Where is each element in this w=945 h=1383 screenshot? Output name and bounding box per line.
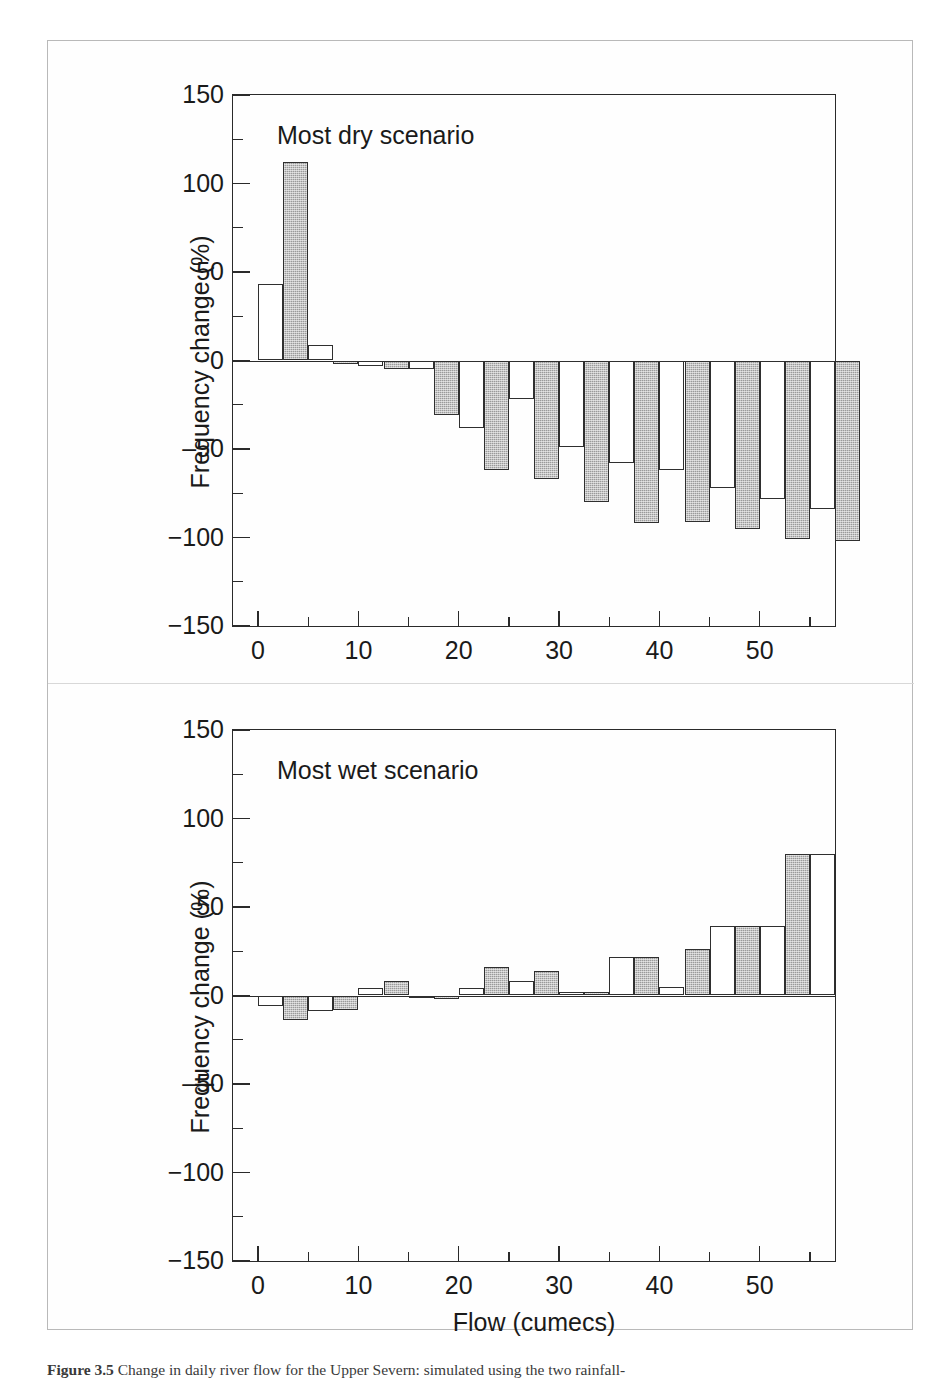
y-tick-minor-wet-4 — [233, 1128, 243, 1129]
y-tick-dry-1: 100 — [233, 183, 250, 184]
bars-layer-dry — [233, 95, 835, 626]
y-tick-wet-0: 150 — [233, 729, 250, 730]
bar-dry-gray-bar-2 — [384, 361, 409, 370]
x-tick-minor-dry-3 — [609, 617, 610, 626]
bar-dry-gray-bar-6 — [584, 361, 609, 503]
bar-wet-gray-bar-8 — [685, 949, 710, 995]
x-tick-dry-1: 10 — [358, 611, 359, 626]
bar-dry-gray-bar-1 — [333, 361, 358, 365]
bars-layer-wet — [233, 730, 835, 1261]
y-tick-minor-dry-3 — [233, 404, 243, 405]
plot-area-wet: 150100500‒50−100−150 01020304050 Most we… — [232, 729, 836, 1262]
x-axis-title: Flow (cumecs) — [232, 1308, 836, 1337]
chart-panel-wet: Frequency change (%) 150100500‒50−100−15… — [48, 684, 914, 1330]
y-tick-label-dry-1: 100 — [182, 170, 224, 196]
x-tick-wet-2: 20 — [458, 1246, 459, 1261]
x-tick-wet-5: 50 — [759, 1246, 760, 1261]
x-tick-label-dry-2: 20 — [445, 637, 473, 664]
x-tick-label-wet-3: 30 — [545, 1272, 573, 1299]
bar-wet-gray-bar-4 — [484, 967, 509, 995]
y-tick-minor-wet-3 — [233, 1039, 243, 1040]
y-tick-wet-2: 50 — [233, 906, 250, 907]
x-tick-wet-4: 40 — [659, 1246, 660, 1261]
y-tick-label-dry-2: 50 — [196, 258, 224, 284]
bar-dry-gray-bar-10 — [785, 361, 810, 540]
y-tick-dry-6: −150 — [233, 625, 250, 626]
x-tick-minor-dry-0 — [308, 617, 309, 626]
y-tick-wet-1: 100 — [233, 818, 250, 819]
y-tick-minor-dry-1 — [233, 227, 243, 228]
bar-dry-white-bar-2 — [358, 361, 383, 366]
bar-wet-gray-bar-3 — [434, 996, 459, 1000]
x-tick-label-wet-5: 50 — [746, 1272, 774, 1299]
bar-wet-white-bar-2 — [358, 988, 383, 995]
y-tick-label-dry-4: ‒50 — [182, 435, 224, 461]
bar-dry-gray-bar-8 — [685, 361, 710, 522]
y-tick-wet-4: ‒50 — [233, 1083, 250, 1084]
y-tick-minor-wet-5 — [233, 1216, 243, 1217]
y-tick-label-dry-5: −100 — [168, 524, 224, 550]
bar-dry-white-bar-9 — [710, 361, 735, 488]
bar-dry-gray-bar-3 — [434, 361, 459, 416]
bar-dry-gray-bar-7 — [634, 361, 659, 524]
x-tick-dry-2: 20 — [458, 611, 459, 626]
bar-wet-white-bar-11 — [810, 854, 835, 996]
y-tick-wet-5: −100 — [233, 1172, 250, 1173]
y-tick-dry-2: 50 — [233, 271, 250, 272]
x-tick-minor-wet-0 — [308, 1252, 309, 1261]
bar-wet-gray-bar-0 — [283, 996, 308, 1021]
x-tick-dry-5: 50 — [759, 611, 760, 626]
caption-number: Figure 3.5 — [47, 1361, 114, 1378]
bar-dry-white-bar-8 — [659, 361, 684, 471]
x-tick-minor-dry-4 — [709, 617, 710, 626]
y-tick-label-wet-5: −100 — [168, 1159, 224, 1185]
bar-wet-gray-bar-1 — [333, 996, 358, 1010]
bar-dry-white-bar-6 — [559, 361, 584, 448]
x-tick-dry-4: 40 — [659, 611, 660, 626]
x-tick-label-dry-3: 30 — [545, 637, 573, 664]
x-tick-minor-wet-3 — [609, 1252, 610, 1261]
bar-wet-gray-bar-6 — [584, 992, 609, 996]
y-tick-label-wet-1: 100 — [182, 805, 224, 831]
y-tick-label-wet-2: 50 — [196, 893, 224, 919]
x-tick-minor-dry-1 — [408, 617, 409, 626]
y-tick-dry-3: 0 — [233, 360, 250, 361]
scenario-label-dry: Most dry scenario — [277, 121, 474, 150]
x-tick-label-wet-2: 20 — [445, 1272, 473, 1299]
bar-wet-white-bar-3 — [409, 996, 434, 998]
x-tick-label-wet-0: 0 — [251, 1272, 265, 1299]
bar-dry-gray-bar-4 — [484, 361, 509, 471]
x-tick-minor-wet-1 — [408, 1252, 409, 1261]
bar-dry-white-bar-1 — [308, 345, 333, 361]
bar-wet-white-bar-7 — [609, 957, 634, 996]
y-tick-label-wet-3: 0 — [210, 982, 224, 1008]
x-tick-label-dry-1: 10 — [345, 637, 373, 664]
x-tick-minor-dry-2 — [508, 617, 509, 626]
bar-wet-gray-bar-5 — [534, 971, 559, 996]
bar-dry-white-bar-11 — [810, 361, 835, 510]
y-tick-label-dry-3: 0 — [210, 347, 224, 373]
x-tick-minor-wet-2 — [508, 1252, 509, 1261]
bar-dry-white-bar-3 — [409, 361, 434, 370]
x-tick-label-dry-4: 40 — [646, 637, 674, 664]
y-tick-label-dry-6: −150 — [168, 612, 224, 638]
bar-dry-white-bar-4 — [459, 361, 484, 428]
y-tick-minor-wet-0 — [233, 774, 243, 775]
bar-wet-white-bar-9 — [710, 926, 735, 995]
x-tick-label-wet-4: 40 — [646, 1272, 674, 1299]
bar-wet-white-bar-10 — [760, 926, 785, 995]
y-tick-minor-dry-5 — [233, 581, 243, 582]
y-tick-minor-wet-2 — [233, 951, 243, 952]
bar-wet-white-bar-5 — [509, 981, 534, 995]
figure-box: Frequency change (%) 150100500‒50−100−15… — [47, 40, 913, 1330]
x-tick-wet-0: 0 — [257, 1246, 258, 1261]
figure-caption: Figure 3.5 Change in daily river flow fo… — [47, 1360, 927, 1380]
bar-wet-gray-bar-10 — [785, 854, 810, 996]
y-tick-dry-5: −100 — [233, 537, 250, 538]
bar-wet-white-bar-4 — [459, 988, 484, 995]
x-tick-label-dry-5: 50 — [746, 637, 774, 664]
bar-wet-white-bar-0 — [258, 996, 283, 1007]
bar-dry-white-bar-7 — [609, 361, 634, 464]
bar-wet-gray-bar-9 — [735, 926, 760, 995]
caption-text: Change in daily river flow for the Upper… — [118, 1361, 626, 1378]
